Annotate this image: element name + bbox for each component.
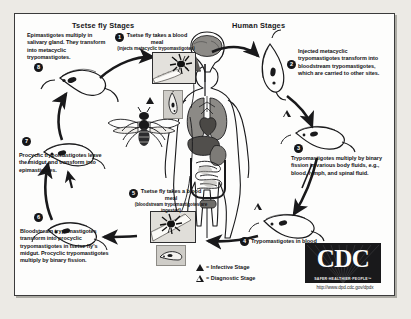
infective-stage-marker-1 xyxy=(146,97,154,104)
stage-2-number: 2 xyxy=(287,60,296,69)
stage-6-number: 6 xyxy=(34,213,43,222)
stage-8-number: 8 xyxy=(34,63,43,72)
diagnostic-stage-marker-3 xyxy=(283,110,291,117)
legend-row-diagnostic: = Diagnostic Stage xyxy=(196,273,255,283)
cdc-logo-text: CDC xyxy=(305,244,381,273)
legend-diagnostic-label: = Diagnostic Stage xyxy=(206,275,255,281)
infective-stage-icon xyxy=(196,264,204,271)
stage-7-text: Procyclic trypomastigotes leave the midg… xyxy=(19,152,105,174)
cdc-url: http://www.dpd.cdc.gov/dpdx xyxy=(305,285,385,290)
cdc-logo: CDC SAFER·HEALTHIER·PEOPLE™ xyxy=(305,243,381,283)
stage-5-title: Tsetse fly takes a blood meal xyxy=(140,188,202,203)
stage-4-number: 4 xyxy=(240,237,249,246)
header-human-stages: Human Stages xyxy=(232,21,285,30)
inset-bloodstream-trypomastigote xyxy=(156,245,186,266)
stage-2-text: Injected metacyclic trypomastigotes tran… xyxy=(298,48,382,77)
photo-box-tsetse-bite-injection xyxy=(152,52,196,84)
diagnostic-stage-icon xyxy=(196,275,204,282)
stage-7-number: 7 xyxy=(22,137,31,146)
header-tsetse-fly-stages: Tsetse fly Stages xyxy=(72,21,134,30)
legend-infective-label: = Infective Stage xyxy=(206,264,250,270)
photo-box-tsetse-bite-ingestion xyxy=(150,211,196,243)
stage-5-number: 5 xyxy=(129,189,138,198)
stage-6-text: Bloodstream trypomastigotes transform in… xyxy=(20,228,112,264)
stage-1-subtitle: (injects metacyclic trypomastigotes) xyxy=(110,46,202,52)
stage-1-title: Tsetse fly takes a blood meal xyxy=(126,32,188,47)
cdc-tagline: SAFER·HEALTHIER·PEOPLE™ xyxy=(305,277,381,281)
stage-1-number: 1 xyxy=(115,33,124,42)
stage-5-subtitle: (bloodstream trypomastigotes are ingeste… xyxy=(127,202,215,214)
inset-metacyclic-trypomastigote xyxy=(163,90,183,119)
legend: = Infective Stage = Diagnostic Stage xyxy=(196,262,255,283)
legend-row-infective: = Infective Stage xyxy=(196,262,255,272)
stage-8-text: Epimastigotes multiply in salivary gland… xyxy=(27,32,109,61)
diagnostic-stage-marker-4 xyxy=(254,203,262,210)
stage-3-number: 3 xyxy=(294,144,303,153)
diagram-root: Tsetse fly Stages Human Stages xyxy=(0,0,411,319)
stage-3-text: Trypomastigotes multiply by binary fissi… xyxy=(291,155,383,177)
